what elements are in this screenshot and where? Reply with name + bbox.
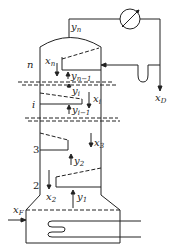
label-stage-2: 2	[33, 180, 39, 191]
label-x2: x2	[46, 191, 57, 204]
distillation-column-diagram: yn n xn yn−1 xD i yi xi yi−1 3 x3 y2 2 x…	[0, 0, 169, 252]
tray-2	[56, 177, 101, 187]
label-yn-1: yn−1	[70, 70, 91, 83]
tray-n	[62, 57, 101, 70]
reboiler	[26, 210, 120, 243]
label-stage-3: 3	[33, 144, 39, 155]
condensate-line	[140, 19, 160, 88]
heating-coil-icon	[48, 221, 141, 237]
label-stage-i: i	[32, 99, 35, 110]
label-y1: y1	[76, 191, 87, 204]
label-stage-n: n	[27, 59, 33, 70]
label-xD: xD	[155, 92, 167, 105]
reflux-arrow-icon	[101, 63, 106, 67]
label-yi-1: yi−1	[71, 104, 90, 117]
label-xn: xn	[45, 55, 56, 68]
feed-arrow-icon	[21, 218, 26, 222]
column-dome	[40, 38, 101, 48]
label-xF: xF	[13, 204, 25, 217]
reflux-line	[105, 65, 160, 82]
label-x3: x3	[94, 137, 105, 150]
label-xi: xi	[93, 93, 101, 106]
distillate-arrow-icon	[158, 86, 162, 91]
label-y2: y2	[73, 155, 85, 168]
label-yi: yi	[71, 85, 80, 98]
label-top-vapor: yn	[70, 21, 82, 34]
tray-3	[40, 140, 68, 150]
